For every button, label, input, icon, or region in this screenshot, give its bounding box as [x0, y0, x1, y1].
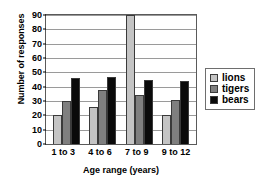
bar-bears-7-to-9[interactable] — [144, 80, 153, 145]
x-tick-label: 7 to 9 — [125, 147, 149, 157]
x-axis-ticks: 1 to 34 to 67 to 99 to 12 — [45, 147, 197, 157]
legend-item-tigers[interactable]: tigers — [210, 84, 249, 94]
bar-bears-1-to-3[interactable] — [71, 78, 80, 144]
legend-item-bears[interactable]: bears — [210, 95, 249, 105]
legend-label: tigers — [222, 84, 249, 94]
y-tick-label: 70 — [32, 39, 42, 48]
bar-lions-4-to-6[interactable] — [89, 107, 98, 144]
y-tick-label: 10 — [32, 125, 42, 134]
y-tick-label: 50 — [32, 68, 42, 77]
bar-group — [126, 15, 153, 144]
x-tick-label: 9 to 12 — [162, 147, 191, 157]
y-tick-label: 60 — [32, 54, 42, 63]
y-tick-label: 20 — [32, 111, 42, 120]
bar-bears-9-to-12[interactable] — [180, 81, 189, 144]
legend-swatch-icon — [210, 96, 218, 104]
bar-group — [162, 15, 189, 144]
bar-lions-7-to-9[interactable] — [126, 15, 135, 144]
y-tick-label: 40 — [32, 82, 42, 91]
bars-layer — [46, 15, 196, 144]
plot-area: 0102030405060708090 — [45, 14, 197, 145]
bar-lions-9-to-12[interactable] — [162, 115, 171, 144]
y-tick-label: 0 — [37, 140, 42, 149]
bar-tigers-1-to-3[interactable] — [62, 101, 71, 144]
bar-lions-1-to-3[interactable] — [53, 115, 62, 144]
y-tick-label: 90 — [32, 11, 42, 20]
bar-tigers-7-to-9[interactable] — [135, 95, 144, 144]
legend-label: lions — [222, 73, 245, 83]
legend-label: bears — [222, 95, 249, 105]
legend-swatch-icon — [210, 85, 218, 93]
x-tick-label: 4 to 6 — [88, 147, 112, 157]
bar-group — [53, 15, 80, 144]
bar-group — [89, 15, 116, 144]
bar-tigers-4-to-6[interactable] — [98, 90, 107, 144]
y-tick-label: 30 — [32, 97, 42, 106]
bar-bears-4-to-6[interactable] — [107, 77, 116, 144]
legend-swatch-icon — [210, 74, 218, 82]
y-axis-title: Number of responses — [16, 0, 26, 124]
chart-legend: lionstigersbears — [205, 68, 255, 110]
x-axis-title: Age range (years) — [45, 165, 197, 175]
x-tick-label: 1 to 3 — [52, 147, 76, 157]
bar-tigers-9-to-12[interactable] — [171, 100, 180, 144]
y-tick-label: 80 — [32, 25, 42, 34]
bar-chart: Number of responses 0102030405060708090 … — [0, 0, 274, 186]
legend-item-lions[interactable]: lions — [210, 73, 249, 83]
